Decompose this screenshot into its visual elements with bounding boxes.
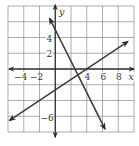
y-tick-label: 4 bbox=[47, 34, 53, 44]
x-tick-labels: −4 −2 4 6 8 bbox=[13, 72, 123, 82]
y-axis-label: y bbox=[58, 6, 65, 17]
y-tick-label: 2 bbox=[47, 49, 53, 59]
x-tick-label: 6 bbox=[101, 72, 107, 82]
x-tick-label: −2 bbox=[30, 72, 43, 82]
coordinate-graph: −4 −2 4 6 8 x 4 2 −6 y bbox=[0, 0, 139, 146]
y-tick-label: −6 bbox=[41, 113, 55, 123]
x-axis-label: x bbox=[129, 71, 135, 82]
x-tick-label: 4 bbox=[85, 72, 91, 82]
x-tick-label: 8 bbox=[116, 72, 122, 82]
x-tick-label: −4 bbox=[14, 72, 28, 82]
steep-line bbox=[50, 19, 105, 129]
